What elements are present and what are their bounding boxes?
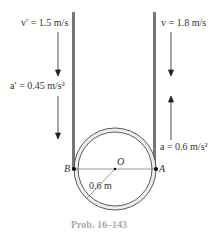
left-velocity-label: v′ = 1.5 m/s: [21, 17, 68, 28]
right-velocity-label: v = 1.8 m/s: [161, 17, 206, 28]
left-rope: [72, 12, 75, 170]
radius-label: 0.6 m: [89, 180, 112, 191]
pulley-diagram: [0, 0, 221, 237]
point-b-label: B: [64, 163, 70, 174]
point-a-dot: [154, 167, 158, 171]
center-label: O: [117, 156, 124, 167]
left-acceleration-label: a′ = 0.45 m/s²: [10, 80, 65, 91]
right-acceleration-label: a = 0.6 m/s²: [160, 141, 208, 152]
point-a-label: A: [159, 163, 165, 174]
point-b-dot: [72, 167, 76, 171]
problem-caption: Prob. 16–143: [71, 219, 127, 230]
right-rope: [153, 12, 156, 170]
center-dot: [114, 168, 116, 170]
